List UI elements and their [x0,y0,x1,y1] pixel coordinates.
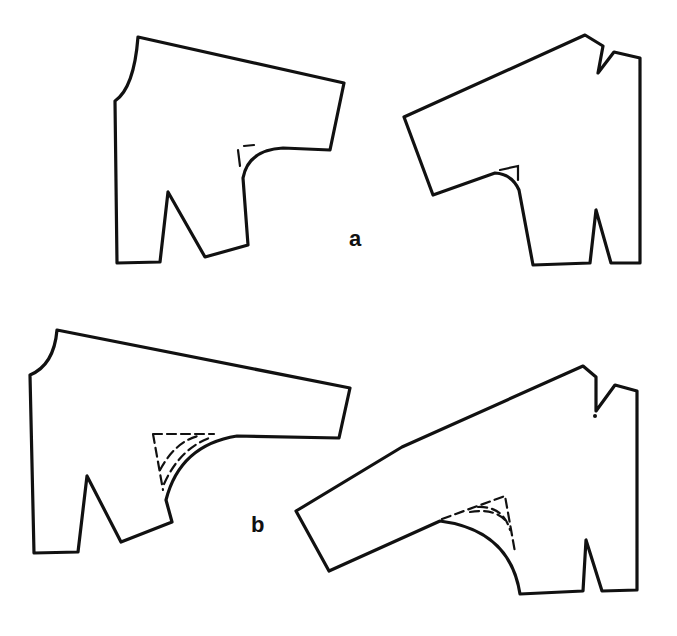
pattern-piece-a-front [404,35,640,265]
figure-label-a: a [349,226,361,252]
figure-label-b: b [251,512,264,538]
pattern-diagram [0,0,677,636]
pattern-piece-a-back [115,37,344,263]
